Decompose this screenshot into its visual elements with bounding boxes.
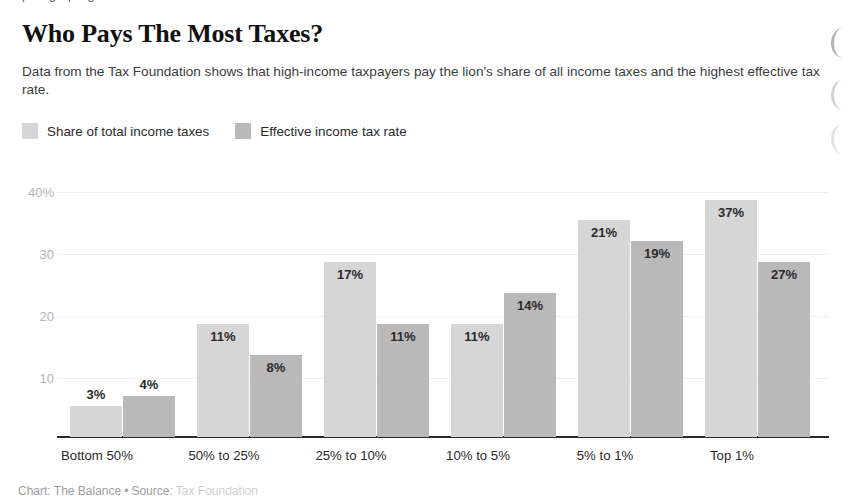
legend-swatch-icon — [235, 123, 251, 139]
x-axis-category-label: 25% to 10% — [286, 448, 416, 463]
bar-share-of-total-income-taxes[interactable]: 21% — [578, 220, 630, 437]
bar-share-of-total-income-taxes[interactable]: 17% — [324, 262, 376, 437]
y-axis-tick-label: 40% — [14, 185, 54, 200]
bar-value-label: 3% — [70, 387, 122, 402]
bar-value-label: 11% — [451, 329, 503, 344]
edge-arc-icon — [831, 124, 848, 154]
x-axis-category-label: 10% to 5% — [413, 448, 543, 463]
gridline — [57, 192, 829, 193]
bar-value-label: 11% — [197, 329, 249, 344]
edge-arc-icon — [831, 28, 848, 58]
bar-effective-income-tax-rate[interactable]: 14% — [504, 293, 556, 437]
legend-item-share-of-total-income-taxes[interactable]: Share of total income taxes — [22, 123, 209, 139]
footer-separator: • — [121, 484, 131, 498]
bar-effective-income-tax-rate[interactable]: 4% — [123, 396, 175, 437]
bar-value-label: 21% — [578, 225, 630, 240]
footer-chart-credit: Chart: The Balance — [18, 484, 121, 498]
cut-off-text-above: p...ng...p...g... — [0, 0, 854, 8]
x-axis-category-label: Bottom 50% — [32, 448, 162, 463]
bar-share-of-total-income-taxes[interactable]: 11% — [451, 324, 503, 437]
x-axis-category-label: Top 1% — [667, 448, 797, 463]
bar-value-label: 11% — [377, 329, 429, 344]
bar-effective-income-tax-rate[interactable]: 19% — [631, 241, 683, 437]
chart-title: Who Pays The Most Taxes? — [22, 19, 323, 49]
bar-effective-income-tax-rate[interactable]: 11% — [377, 324, 429, 437]
y-axis-tick-label: 20 — [14, 309, 54, 324]
legend-item-label: Effective income tax rate — [260, 124, 406, 139]
bar-value-label: 19% — [631, 246, 683, 261]
bar-value-label: 8% — [250, 360, 302, 375]
bar-share-of-total-income-taxes[interactable]: 11% — [197, 324, 249, 437]
bar-value-label: 14% — [504, 298, 556, 313]
legend-item-effective-income-tax-rate[interactable]: Effective income tax rate — [235, 123, 406, 139]
footer-source-link[interactable]: Tax Foundation — [176, 484, 258, 498]
bar-effective-income-tax-rate[interactable]: 27% — [758, 262, 810, 437]
chart-legend: Share of total income taxes Effective in… — [22, 123, 407, 139]
footer-source-prefix: Source: — [131, 484, 172, 498]
y-axis-tick-label: 30 — [14, 247, 54, 262]
bar-share-of-total-income-taxes[interactable]: 37% — [705, 200, 757, 437]
bar-value-label: 37% — [705, 205, 757, 220]
legend-swatch-icon — [22, 123, 38, 139]
bar-share-of-total-income-taxes[interactable]: 3% — [70, 406, 122, 437]
bar-value-label: 17% — [324, 267, 376, 282]
x-axis-category-label: 5% to 1% — [540, 448, 670, 463]
chart-subtitle: Data from the Tax Foundation shows that … — [22, 63, 822, 99]
bar-value-label: 4% — [123, 377, 175, 392]
bar-effective-income-tax-rate[interactable]: 8% — [250, 355, 302, 437]
chart-footer: Chart: The Balance•Source: Tax Foundatio… — [18, 484, 258, 498]
edge-arc-icon — [831, 80, 848, 110]
legend-item-label: Share of total income taxes — [47, 124, 209, 139]
x-axis-category-label: 50% to 25% — [159, 448, 289, 463]
bar-value-label: 27% — [758, 267, 810, 282]
y-axis-tick-label: 10 — [14, 371, 54, 386]
